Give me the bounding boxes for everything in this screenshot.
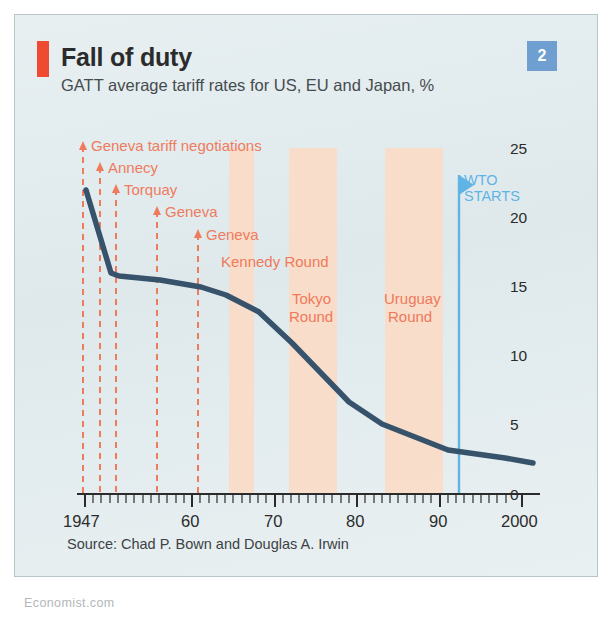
chart-card: Fall of duty GATT average tariff rates f… [14, 14, 598, 577]
band-label-uruguay-round-line2: Round [388, 308, 432, 325]
annotation-geneva-tariff-negotiations: Geneva tariff negotiations [91, 137, 262, 154]
x-tick-80: 80 [346, 512, 364, 530]
band-label-tokyo-round-line2: Round [289, 308, 333, 325]
tariff-line-chart: Geneva tariff negotiations Annecy Torqua… [15, 15, 598, 577]
x-tick-1947: 1947 [63, 512, 100, 530]
source-note: Source: Chad P. Bown and Douglas A. Irwi… [67, 536, 349, 552]
annotation-annecy: Annecy [108, 159, 159, 176]
annotation-torquay: Torquay [124, 181, 178, 198]
annotation-geneva-1961: Geneva [206, 226, 259, 243]
band-label-uruguay-round-line1: Uruguay [384, 290, 441, 307]
x-axis-labels: 1947 60 70 80 90 2000 [63, 512, 538, 530]
band-label-kennedy-round: Kennedy Round [221, 253, 329, 270]
annotation-geneva-1956: Geneva [165, 203, 218, 220]
arrowhead-geneva-1947 [79, 141, 87, 150]
y-tick-20: 20 [510, 209, 528, 226]
x-tick-60: 60 [181, 512, 199, 530]
event-marker-lines [83, 146, 198, 494]
y-tick-10: 10 [510, 347, 528, 364]
wto-label-line1: WTO [464, 172, 498, 188]
x-tick-2000: 2000 [501, 512, 538, 530]
x-tick-90: 90 [429, 512, 447, 530]
band-label-tokyo-round-line1: Tokyo [292, 290, 331, 307]
y-tick-5: 5 [510, 416, 519, 433]
arrowhead-geneva-1956 [153, 206, 161, 215]
wto-label-line2: STARTS [464, 188, 520, 204]
x-tick-70: 70 [264, 512, 282, 530]
arrowhead-geneva-1961 [194, 229, 202, 238]
arrowhead-annecy-1949 [96, 162, 104, 171]
band-kennedy-round [229, 148, 254, 494]
x-axis-minor-ticks [85, 494, 506, 503]
arrowhead-torquay-1951 [112, 184, 120, 193]
y-tick-15: 15 [510, 278, 527, 295]
footer-attribution: Economist.com [24, 596, 115, 610]
y-tick-25: 25 [510, 140, 527, 157]
